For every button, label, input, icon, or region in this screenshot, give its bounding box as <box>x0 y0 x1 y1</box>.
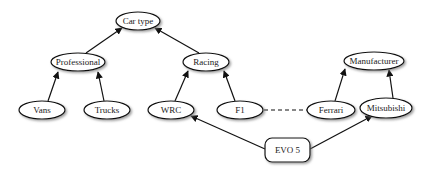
edge-wrc-racing <box>175 71 188 101</box>
node-label: F1 <box>235 105 245 115</box>
node-label: Car type <box>123 16 154 26</box>
edge-mitsubishi-manufacturer <box>389 70 393 98</box>
node-label: Vans <box>33 105 51 115</box>
node-label: WRC <box>161 105 182 115</box>
nodes: Car type Professional Racing Manufacture… <box>19 12 412 162</box>
node-f1: F1 <box>217 101 263 119</box>
node-label: Trucks <box>95 105 120 115</box>
node-trucks: Trucks <box>84 101 130 119</box>
node-manufacturer: Manufacturer <box>344 52 404 70</box>
node-wrc: WRC <box>148 101 194 119</box>
edge-f1-racing <box>224 71 235 101</box>
edge-evo5-mitsubishi <box>310 116 372 149</box>
node-label: Professional <box>56 57 101 67</box>
node-label: Manufacturer <box>350 56 399 66</box>
node-label: Mitsubishi <box>367 103 406 113</box>
node-evo5: EVO 5 <box>265 138 310 162</box>
edge-ferrari-manufacturer <box>335 69 345 101</box>
node-professional: Professional <box>51 53 105 71</box>
node-label: Racing <box>193 57 219 67</box>
edge-vans-professional <box>48 72 58 101</box>
edge-racing-car-type <box>155 28 199 53</box>
edge-trucks-professional <box>98 72 104 101</box>
edges <box>48 28 393 149</box>
node-vans: Vans <box>19 101 65 119</box>
edge-evo5-wrc <box>191 116 265 149</box>
node-ferrari: Ferrari <box>307 101 355 119</box>
node-racing: Racing <box>183 53 229 71</box>
taxonomy-diagram: Car type Professional Racing Manufacture… <box>0 0 445 175</box>
edge-professional-car-type <box>86 28 122 53</box>
node-car-type: Car type <box>116 12 160 30</box>
node-label: EVO 5 <box>275 145 301 155</box>
node-mitsubishi: Mitsubishi <box>360 98 412 118</box>
node-label: Ferrari <box>319 105 344 115</box>
